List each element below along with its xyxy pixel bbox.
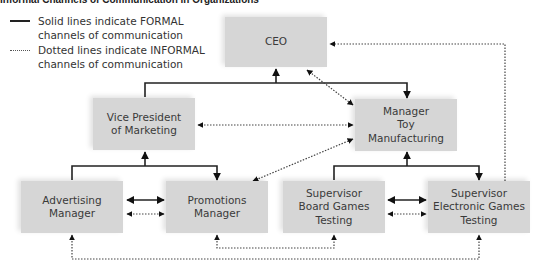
node-promotions-manager: Promotions Manager bbox=[166, 181, 268, 233]
node-elec-line3: Testing bbox=[433, 214, 525, 228]
node-board-line3: Testing bbox=[299, 214, 370, 228]
node-promo-line1: Promotions bbox=[188, 194, 247, 208]
node-promo-line2: Manager bbox=[188, 207, 247, 221]
node-ceo: CEO bbox=[225, 17, 327, 67]
node-elec-line2: Electronic Games bbox=[433, 200, 525, 214]
node-manager-toy: Manager Toy Manufacturing bbox=[355, 99, 457, 151]
node-adv-line2: Manager bbox=[42, 207, 101, 221]
node-vp-line2: of Marketing bbox=[107, 124, 181, 138]
node-supervisor-electronic-games: Supervisor Electronic Games Testing bbox=[428, 181, 530, 233]
node-ceo-label: CEO bbox=[265, 35, 287, 49]
node-vp-line1: Vice President bbox=[107, 111, 181, 125]
node-vp-marketing: Vice President of Marketing bbox=[93, 98, 195, 150]
node-toy-line3: Manufacturing bbox=[368, 132, 444, 146]
node-advertising-manager: Advertising Manager bbox=[21, 181, 123, 233]
node-board-line1: Supervisor bbox=[299, 187, 370, 201]
node-toy-line2: Toy bbox=[368, 118, 444, 132]
node-supervisor-board-games: Supervisor Board Games Testing bbox=[283, 181, 385, 233]
node-toy-line1: Manager bbox=[368, 105, 444, 119]
node-board-line2: Board Games bbox=[299, 200, 370, 214]
node-elec-line1: Supervisor bbox=[433, 187, 525, 201]
node-adv-line1: Advertising bbox=[42, 194, 101, 208]
